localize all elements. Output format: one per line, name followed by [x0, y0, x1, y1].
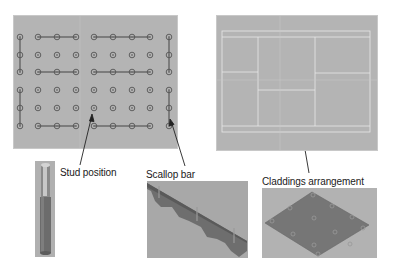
scallop-bar-render — [147, 181, 248, 258]
stud-position-label: Stud position — [60, 167, 117, 178]
cladding-render — [262, 188, 377, 258]
scallop-bar-label: Scallop bar — [146, 169, 195, 180]
claddings-arrangement-label: Claddings arrangement — [262, 176, 364, 187]
stud-render — [35, 161, 55, 257]
